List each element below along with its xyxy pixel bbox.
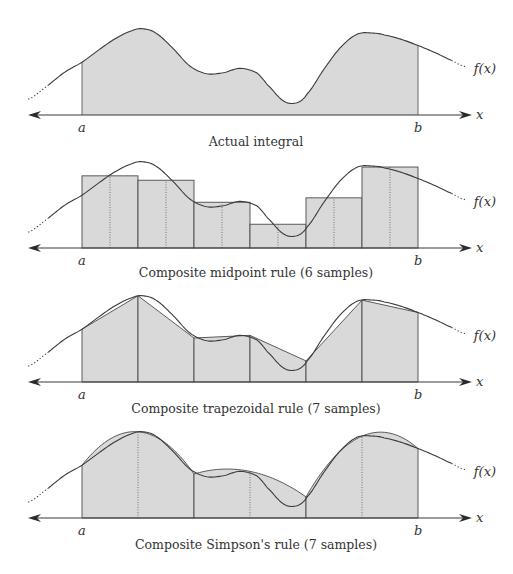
lower-bound-label-a: a (78, 120, 86, 135)
panel-caption: Composite trapezoidal rule (7 samples) (131, 401, 380, 416)
panel-trapezoidal-rule: xabf(x)Composite trapezoidal rule (7 sam… (28, 296, 496, 416)
simpson-parabola-segment (194, 469, 306, 518)
panel-midpoint-rule: xabf(x)Composite midpoint rule (6 sample… (28, 162, 496, 280)
function-label-fx: f(x) (473, 194, 496, 209)
curve-right-dotted-extension (452, 327, 465, 333)
x-axis-label: x (476, 510, 484, 525)
panel-caption: Composite Simpson's rule (7 samples) (135, 537, 377, 552)
trapezoid-segment (194, 335, 250, 382)
panel-simpsons-rule: xabf(x)Composite Simpson's rule (7 sampl… (28, 432, 496, 552)
trapezoid-segment (250, 335, 306, 382)
lower-bound-label-a: a (78, 387, 86, 402)
numerical-integration-figure: xabf(x)Actual integral xabf(x)Composite … (0, 0, 513, 574)
curve-right-dotted-extension (452, 193, 465, 199)
trapezoid-segment (362, 300, 418, 382)
upper-bound-label-b: b (414, 523, 422, 538)
function-label-fx: f(x) (473, 328, 496, 343)
x-axis-label: x (476, 374, 484, 389)
panel-caption: Composite midpoint rule (6 samples) (139, 265, 373, 280)
lower-bound-label-a: a (78, 523, 86, 538)
upper-bound-label-b: b (414, 120, 422, 135)
curve-left-dotted-extension (28, 85, 48, 99)
function-label-fx: f(x) (473, 61, 496, 76)
curve-right-dotted-extension (452, 60, 465, 66)
lower-bound-label-a: a (78, 253, 86, 268)
integral-shaded-area (82, 29, 418, 115)
curve-right-dotted-extension (452, 463, 465, 469)
curve-left-dotted-extension (28, 218, 48, 232)
cut-off-body-text (0, 562, 513, 574)
panel-caption: Actual integral (208, 134, 303, 149)
function-label-fx: f(x) (473, 464, 496, 479)
upper-bound-label-b: b (414, 387, 422, 402)
x-axis-label: x (476, 240, 484, 255)
panel-actual-integral: xabf(x)Actual integral (28, 29, 496, 149)
x-axis-label: x (476, 107, 484, 122)
upper-bound-label-b: b (414, 253, 422, 268)
curve-left-dotted-extension (28, 488, 48, 502)
curve-left-dotted-extension (28, 352, 48, 366)
trapezoid-segment (306, 300, 362, 382)
